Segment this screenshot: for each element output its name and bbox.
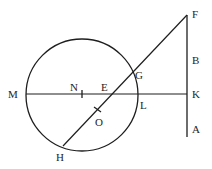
geometry-diagram: M N E O G L H F B K A [0, 0, 212, 169]
label-L: L [140, 99, 147, 111]
label-G: G [135, 69, 143, 81]
diagram-canvas: M N E O G L H F B K A [0, 0, 212, 169]
line-FH [63, 15, 187, 146]
label-F: F [192, 8, 198, 20]
label-O: O [95, 116, 103, 128]
label-A: A [192, 123, 200, 135]
label-N: N [70, 81, 78, 93]
label-H: H [56, 151, 64, 163]
label-M: M [8, 88, 18, 100]
label-E: E [101, 81, 108, 93]
label-K: K [192, 88, 200, 100]
label-B: B [192, 54, 199, 66]
